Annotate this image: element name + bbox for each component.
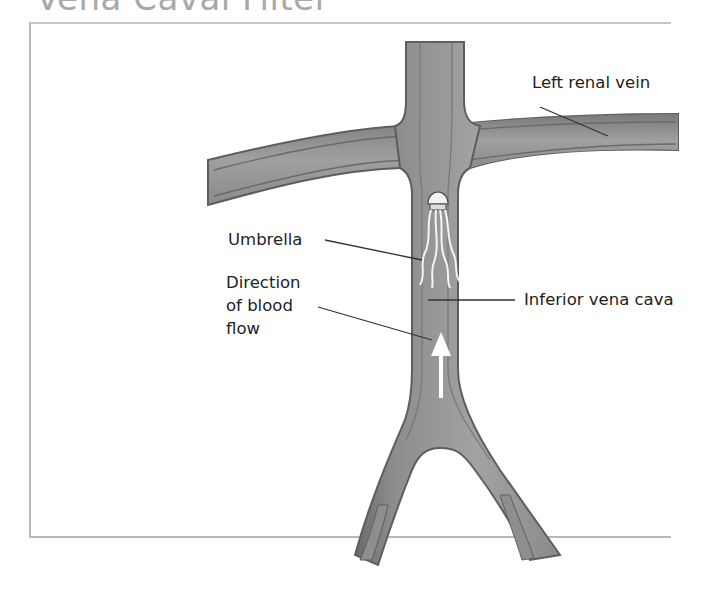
label-umbrella: Umbrella: [228, 230, 302, 250]
label-direction-line1: Direction: [226, 273, 301, 293]
label-left-renal-vein: Left renal vein: [532, 73, 650, 93]
label-direction-line3: flow: [226, 319, 260, 339]
label-inferior-vena-cava: Inferior vena cava: [524, 290, 674, 310]
leader-umbrella: [325, 240, 422, 260]
label-direction-line2: of blood: [226, 296, 293, 316]
